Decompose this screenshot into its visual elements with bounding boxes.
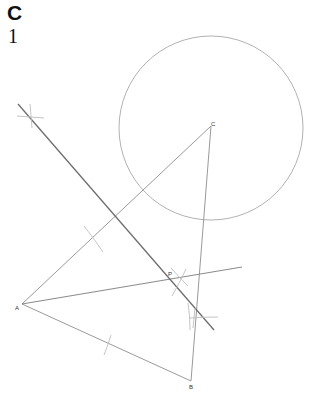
label-p: P: [168, 271, 172, 277]
side-cb: [191, 126, 211, 381]
label-c: C: [211, 121, 216, 127]
geometry-construction: A B C P: [0, 0, 321, 412]
label-b: B: [189, 384, 193, 390]
side-ab: [22, 304, 191, 381]
construction-arcs: [17, 104, 218, 355]
label-a: A: [15, 305, 19, 311]
perpendicular-bisector: [18, 104, 214, 330]
